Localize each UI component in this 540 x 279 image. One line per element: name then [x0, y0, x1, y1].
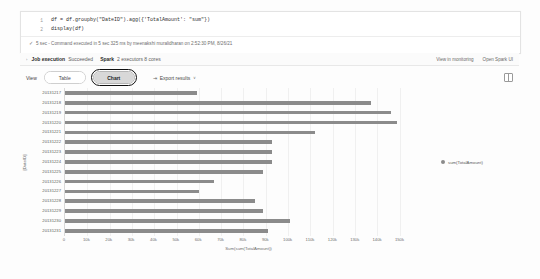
bar[interactable]: [65, 91, 197, 95]
x-axis-tick-label: 40k: [150, 237, 157, 242]
open-spark-ui-link[interactable]: Open Spark UI: [483, 57, 513, 62]
y-axis-tick-label: 20131221: [30, 128, 64, 136]
view-toggle-table[interactable]: Table: [44, 71, 86, 84]
legend-item[interactable]: sum(TotalAmount): [441, 160, 483, 165]
bar-row: [65, 148, 433, 156]
y-axis-tick-label: 20131226: [30, 178, 64, 186]
y-axis-tick-label: 20131225: [30, 168, 64, 176]
y-axis-tick-label: 20131229: [30, 207, 64, 215]
bar-row: [65, 187, 433, 195]
line-number: 1: [21, 16, 51, 25]
code-editor[interactable]: 1 df = df.groupby("DateID").agg({'TotalA…: [21, 12, 520, 36]
bar[interactable]: [65, 131, 315, 135]
bar-row: [65, 158, 433, 166]
bar-row: [65, 168, 433, 176]
y-axis-tick-label: 20131222: [30, 138, 64, 146]
bar-series: [65, 88, 433, 236]
x-axis-title-text: Sum(sum(TotalAmount)): [64, 246, 433, 256]
legend-color-dot: [441, 160, 445, 164]
bar[interactable]: [65, 170, 263, 174]
cell-execution-status: ✓ 5 sec - Command executed in 5 sec 325 …: [21, 36, 520, 49]
bar[interactable]: [65, 140, 272, 144]
bar-row: [65, 109, 433, 117]
y-axis-title: [DateID]: [20, 88, 30, 236]
y-axis-tick-label: 20131219: [30, 109, 64, 117]
code-text: display(df): [51, 25, 84, 34]
export-results-button[interactable]: ⇥ Export results ∨: [153, 75, 197, 81]
bar-row: [65, 119, 433, 127]
bar[interactable]: [65, 190, 199, 194]
chevron-right-icon[interactable]: ›: [26, 57, 27, 62]
x-axis-tick-label: 100k: [283, 237, 292, 242]
bar[interactable]: [65, 101, 371, 105]
success-check-icon: ✓: [29, 41, 33, 46]
y-axis-tick-label: 20131224: [30, 158, 64, 166]
notebook-result-page: 1 df = df.groupby("DateID").agg({'TotalA…: [0, 0, 540, 279]
bar[interactable]: [65, 219, 290, 223]
bar-row: [65, 207, 433, 215]
y-axis-tick-label: 20131230: [30, 217, 64, 225]
bar[interactable]: [65, 199, 255, 203]
y-axis-tick-label: 20131223: [30, 148, 64, 156]
bar[interactable]: [65, 209, 263, 213]
plot-area: [64, 88, 433, 236]
x-title-right-spacer: [433, 246, 519, 256]
job-execution-bar[interactable]: › Job execution Succeeded Spark 2 execut…: [20, 53, 519, 66]
bar-row: [65, 99, 433, 107]
bar-row: [65, 128, 433, 136]
x-axis-tick-label: 50k: [172, 237, 179, 242]
bar[interactable]: [65, 180, 214, 184]
code-line: 2 display(df): [21, 25, 520, 34]
job-execution-state: Succeeded: [68, 56, 93, 62]
y-axis-tick-label: 20131220: [30, 119, 64, 127]
spark-detail: 2 executors 8 cores: [117, 56, 161, 62]
y-axis-tick-labels: 2013121720131218201312192013122020131221…: [30, 88, 64, 236]
x-axis-tick-label: 90k: [262, 237, 269, 242]
x-axis-row: 010k20k30k40k50k60k70k80k90k100k110k120k…: [20, 236, 519, 246]
export-icon: ⇥: [153, 75, 157, 81]
spark-label: Spark: [100, 56, 114, 62]
view-toggle-chart[interactable]: Chart: [93, 71, 135, 84]
view-in-monitoring-link[interactable]: View in monitoring: [436, 57, 473, 62]
y-axis-title-text: [DateID]: [23, 154, 28, 170]
chart-options-icon[interactable]: [504, 73, 513, 82]
x-axis-tick-label: 130k: [350, 237, 359, 242]
bar[interactable]: [65, 150, 272, 154]
bar-row: [65, 138, 433, 146]
x-axis-tick-label: 60k: [195, 237, 202, 242]
x-axis-tick-label: 150k: [395, 237, 404, 242]
bar[interactable]: [65, 121, 397, 125]
job-links: View in monitoring Open Spark UI: [436, 57, 513, 62]
x-axis-right-spacer: [433, 236, 519, 246]
x-axis-tick-labels: 010k20k30k40k50k60k70k80k90k100k110k120k…: [64, 236, 433, 246]
line-number: 2: [21, 25, 51, 34]
code-text: df = df.groupby("DateID").agg({'TotalAmo…: [51, 16, 210, 25]
x-axis-tick-label: 80k: [240, 237, 247, 242]
toolbar-right: [504, 73, 513, 82]
bar-row: [65, 197, 433, 205]
bar-row: [65, 227, 433, 235]
bar[interactable]: [65, 160, 272, 164]
x-axis-title-row: Sum(sum(TotalAmount)): [20, 246, 519, 256]
y-axis-tick-label: 20131227: [30, 187, 64, 195]
bar-row: [65, 217, 433, 225]
x-axis-tick-label: 140k: [373, 237, 382, 242]
x-axis-tick-label: 110k: [306, 237, 315, 242]
view-label: View: [26, 75, 37, 81]
chart-view-focus-ring: Chart: [91, 69, 137, 86]
chart-view-button[interactable]: Chart: [94, 72, 134, 83]
bar-row: [65, 178, 433, 186]
x-title-left-spacer: [20, 246, 64, 256]
export-results-label: Export results: [160, 75, 191, 81]
x-axis-tick-label: 0: [63, 237, 65, 242]
table-view-button[interactable]: Table: [45, 72, 85, 83]
x-axis-tick-label: 10k: [83, 237, 90, 242]
y-axis-tick-label: 20131231: [30, 227, 64, 235]
bar[interactable]: [65, 229, 268, 233]
y-axis-tick-label: 20131218: [30, 99, 64, 107]
bar[interactable]: [65, 111, 391, 115]
y-axis-tick-label: 20131228: [30, 197, 64, 205]
x-axis-tick-label: 70k: [217, 237, 224, 242]
notebook-code-cell[interactable]: 1 df = df.groupby("DateID").agg({'TotalA…: [20, 11, 521, 54]
legend-label: sum(TotalAmount): [448, 160, 483, 165]
